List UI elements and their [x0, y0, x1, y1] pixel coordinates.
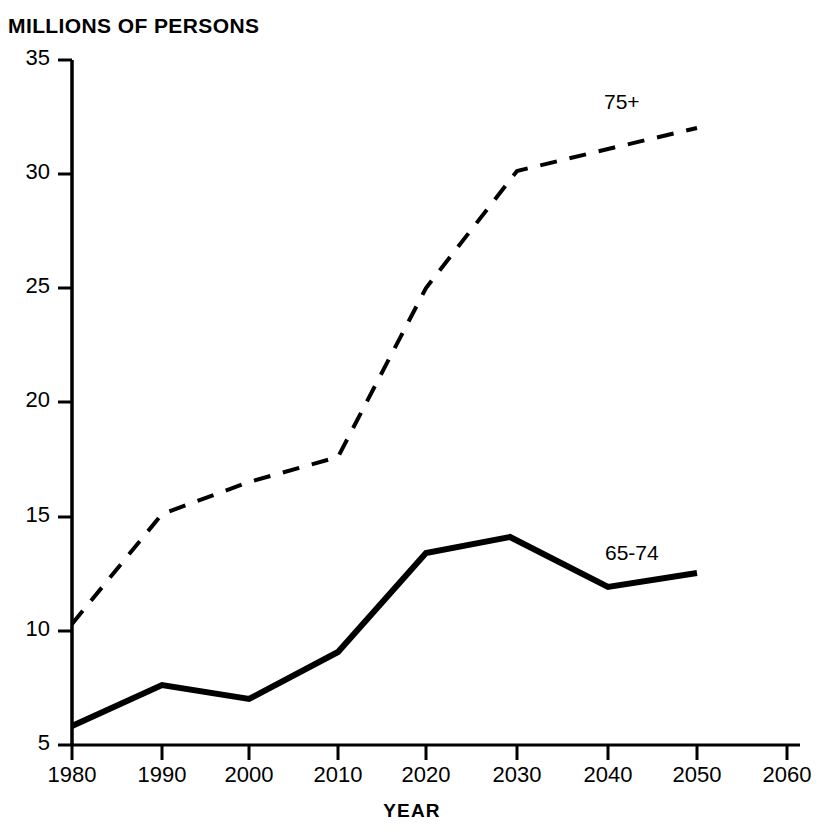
y-tick-marks: [58, 60, 72, 745]
x-tick-label-2040: 2040: [563, 762, 653, 788]
series-label-75-plus: 75+: [604, 90, 640, 114]
x-tick-label-2010: 2010: [293, 762, 383, 788]
x-axis-title: YEAR: [0, 800, 824, 822]
y-tick-label-20: 20: [4, 387, 50, 413]
y-tick-label-15: 15: [4, 502, 50, 528]
x-tick-marks: [72, 745, 787, 760]
y-tick-label-25: 25: [4, 273, 50, 299]
y-tick-label-30: 30: [4, 159, 50, 185]
x-tick-label-2060: 2060: [742, 762, 824, 788]
series-label-65-74: 65-74: [605, 541, 659, 565]
series-line-65-74: [72, 537, 697, 726]
x-tick-label-1980: 1980: [27, 762, 117, 788]
x-tick-label-2050: 2050: [652, 762, 742, 788]
x-tick-label-2020: 2020: [381, 762, 471, 788]
x-tick-label-1990: 1990: [117, 762, 207, 788]
x-tick-label-2030: 2030: [472, 762, 562, 788]
y-tick-label-35: 35: [4, 45, 50, 71]
x-tick-label-2000: 2000: [204, 762, 294, 788]
series-line-75-plus: [72, 128, 697, 624]
chart-container: MILLIONS OF PERSONS: [0, 0, 824, 837]
plot-area: [0, 0, 824, 837]
y-tick-label-5: 5: [4, 730, 50, 756]
y-tick-label-10: 10: [4, 616, 50, 642]
